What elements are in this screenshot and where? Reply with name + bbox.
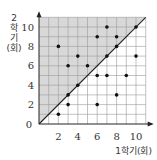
data-point: [134, 25, 138, 29]
data-point: [105, 54, 109, 58]
x-tick-label: 10: [130, 131, 143, 142]
data-point: [115, 93, 119, 97]
data-point: [66, 64, 70, 68]
data-point: [95, 35, 99, 39]
y-tick-label: 2: [28, 99, 34, 110]
data-point: [86, 64, 90, 68]
data-point: [76, 54, 80, 58]
data-point: [57, 113, 61, 117]
x-tick-label: 6: [94, 131, 100, 142]
x-tick-label: 8: [113, 131, 119, 142]
data-point: [134, 54, 138, 58]
y-tick-label: 4: [28, 80, 34, 91]
y-tick-label: 8: [28, 41, 34, 52]
x-axis-arrow-icon: [148, 122, 154, 127]
origin-label: 0: [26, 119, 32, 130]
data-point: [125, 74, 129, 78]
data-point: [76, 83, 80, 87]
scatter-chart: 2468102468100 1학기(회)2학기(회): [0, 0, 157, 160]
data-point: [115, 45, 119, 49]
y-axis-label: 학: [10, 23, 18, 33]
y-axis-label: 2: [11, 13, 17, 23]
x-axis-label: 1학기(회): [115, 146, 152, 156]
y-axis-arrow-icon: [37, 11, 42, 17]
y-axis-label: (회): [6, 43, 21, 53]
data-point: [66, 103, 70, 107]
data-point: [115, 35, 119, 39]
data-point: [95, 103, 99, 107]
data-point: [66, 93, 70, 97]
y-tick-label: 6: [28, 60, 34, 71]
y-tick-label: 10: [21, 22, 34, 33]
data-point: [57, 45, 61, 49]
data-point: [105, 25, 109, 29]
y-axis-label: 기: [10, 33, 18, 43]
data-point: [105, 74, 109, 78]
x-tick-label: 4: [75, 131, 81, 142]
data-point: [95, 74, 99, 78]
x-tick-label: 2: [55, 131, 61, 142]
